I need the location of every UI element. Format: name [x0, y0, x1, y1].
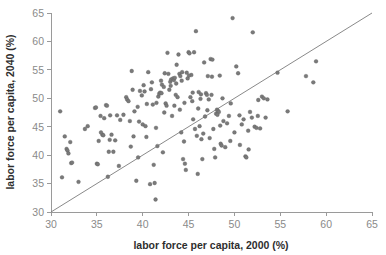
data-point — [233, 131, 237, 135]
data-point — [133, 109, 137, 113]
data-point — [146, 70, 150, 74]
data-point — [154, 198, 158, 202]
data-point — [178, 74, 182, 78]
data-point — [222, 119, 226, 123]
data-point — [200, 137, 204, 141]
scatter-chart-figure: 3035404550556065 3035404550556065 labor … — [0, 0, 386, 255]
data-point — [154, 126, 158, 130]
data-point — [251, 30, 255, 34]
data-point — [199, 97, 203, 101]
data-point — [178, 108, 182, 112]
data-point — [236, 71, 240, 75]
data-point — [115, 113, 119, 117]
data-point — [150, 80, 154, 84]
y-axis-title: labor force per capita, 2040 (%) — [4, 34, 16, 189]
data-point — [152, 163, 156, 167]
data-point — [58, 109, 62, 113]
data-point — [206, 74, 210, 78]
y-axis-ticks: 3035404550556065 — [32, 7, 51, 218]
reference-line — [51, 13, 372, 212]
data-point — [166, 51, 170, 55]
x-tick-label: 30 — [45, 218, 57, 230]
data-point — [107, 150, 111, 154]
data-points-group — [58, 16, 318, 201]
data-point — [286, 109, 290, 113]
data-point — [255, 126, 259, 130]
data-point — [159, 79, 163, 83]
data-point — [208, 136, 212, 140]
data-point — [191, 117, 195, 121]
data-point — [256, 98, 260, 102]
data-point — [201, 132, 205, 136]
data-point — [176, 95, 180, 99]
data-point — [166, 72, 170, 76]
data-point — [238, 143, 242, 147]
data-point — [117, 164, 121, 168]
data-point — [118, 118, 122, 122]
data-point — [99, 131, 103, 135]
y-tick-label: 55 — [32, 64, 44, 76]
data-point — [110, 133, 114, 137]
data-point — [105, 104, 109, 108]
data-point — [129, 145, 133, 149]
data-point — [177, 53, 181, 57]
x-tick-label: 60 — [320, 218, 332, 230]
data-point — [94, 105, 98, 109]
y-tick-label: 45 — [32, 121, 44, 133]
data-point — [175, 63, 179, 67]
data-point — [187, 74, 191, 78]
data-point — [111, 150, 115, 154]
data-point — [143, 90, 147, 94]
data-point — [304, 74, 308, 78]
data-point — [122, 113, 126, 117]
data-point — [244, 156, 248, 160]
data-point — [199, 92, 203, 96]
data-point — [174, 82, 178, 86]
y-tick-label: 60 — [32, 35, 44, 47]
data-point — [189, 95, 193, 99]
data-point — [108, 113, 112, 117]
data-point — [167, 88, 171, 92]
data-point — [202, 61, 206, 65]
y-tick-label: 40 — [32, 149, 44, 161]
data-point — [173, 76, 177, 80]
data-point — [207, 98, 211, 102]
data-point — [225, 121, 229, 125]
data-point — [127, 99, 131, 103]
data-point — [183, 101, 187, 105]
data-point — [229, 102, 233, 106]
data-point — [220, 144, 224, 148]
data-point — [102, 116, 106, 120]
data-point — [314, 59, 318, 63]
data-point — [194, 29, 198, 33]
data-point — [311, 80, 315, 84]
data-point — [258, 127, 262, 131]
data-point — [155, 144, 159, 148]
data-point — [210, 75, 214, 79]
data-point — [211, 127, 215, 131]
y-tick-label: 30 — [32, 206, 44, 218]
data-point — [218, 124, 222, 128]
data-point — [213, 156, 217, 160]
data-point — [198, 124, 202, 128]
data-point — [212, 147, 216, 151]
data-point — [180, 79, 184, 83]
data-point — [144, 135, 148, 139]
data-point — [196, 172, 200, 176]
data-point — [142, 83, 146, 87]
data-point — [67, 152, 71, 156]
x-axis-title: labor force per capita, 2000 (%) — [133, 239, 288, 251]
data-point — [196, 107, 200, 111]
data-point — [200, 157, 204, 161]
data-point — [97, 139, 101, 143]
data-point — [183, 162, 187, 166]
data-point — [238, 113, 242, 117]
data-point — [153, 181, 157, 185]
data-point — [205, 93, 209, 97]
data-point — [99, 114, 103, 118]
data-point — [182, 140, 186, 144]
data-point — [165, 104, 169, 108]
data-point — [242, 117, 246, 121]
data-point — [155, 101, 159, 105]
data-point — [128, 119, 132, 123]
